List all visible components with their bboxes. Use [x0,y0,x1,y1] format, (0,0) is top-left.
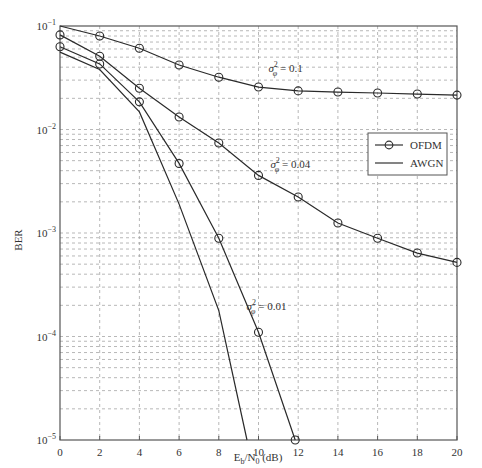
legend-awgn-label: AWGN [410,157,443,169]
variance-annotation: σ2φ = 0.01 [247,298,287,316]
y-tick-label: 10−5 [36,432,56,446]
x-tick-label: 6 [176,446,182,458]
x-tick-label: 4 [137,446,143,458]
legend: OFDM AWGN [368,133,447,175]
y-axis-label: BER [12,229,24,251]
ofdm-curve [60,47,295,440]
ber-chart: 02468101214161820 10−110−210−310−410−5 σ… [0,0,482,468]
grid-lines [60,26,457,440]
y-tick-label: 10−4 [36,329,56,343]
x-tick-label: 12 [293,446,304,458]
x-tick-label: 8 [216,446,222,458]
x-tick-label: 0 [57,446,63,458]
x-tick-label: 2 [97,446,103,458]
y-tick-label: 10−2 [36,122,56,136]
x-tick-label: 20 [452,446,464,458]
x-tick-label: 14 [332,446,344,458]
x-tick-label: 18 [412,446,424,458]
y-tick-label: 10−3 [36,225,56,239]
x-tick-label: 16 [372,446,384,458]
y-tick-label: 10−1 [36,18,56,32]
legend-ofdm-label: OFDM [410,139,442,151]
variance-annotation: σ2φ = 0.04 [270,156,310,174]
y-axis-ticks: 10−110−210−310−410−5 [36,18,56,446]
variance-annotation: σ2φ = 0.1 [268,60,302,78]
